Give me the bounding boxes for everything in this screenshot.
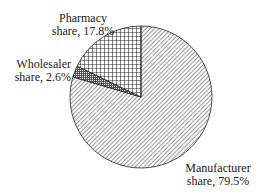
label-manufacturer: Manufacturer share, 79.5% (180, 162, 256, 188)
label-pharmacy: Pharmacy share, 17.8% (48, 12, 118, 38)
pie-slices (70, 26, 212, 168)
label-wholesaler: Wholesaler share, 2.6% (5, 58, 71, 84)
label-wholesaler-line2: share, 2.6% (5, 71, 71, 84)
label-manufacturer-line2: share, 79.5% (180, 175, 256, 188)
label-pharmacy-line2: share, 17.8% (48, 25, 118, 38)
pie-chart: Pharmacy share, 17.8% Wholesaler share, … (0, 0, 259, 196)
